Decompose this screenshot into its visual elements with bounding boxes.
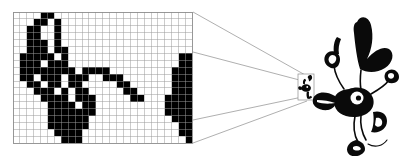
pixel-cell xyxy=(186,67,193,74)
pixel-cell xyxy=(110,74,117,81)
pixel-cell xyxy=(61,47,68,54)
pixel-cell xyxy=(27,26,34,33)
pixel-cell xyxy=(48,109,55,116)
pixel-cell xyxy=(186,53,193,60)
pixel-cell xyxy=(75,109,82,116)
pixel-cell xyxy=(61,88,68,95)
pixel-cell xyxy=(61,53,68,60)
pixel-cell xyxy=(75,81,82,88)
pixel-cell xyxy=(27,60,34,67)
pixel-cell xyxy=(61,60,68,67)
pixel-cell xyxy=(48,81,55,88)
pixel-cell xyxy=(89,95,96,102)
pixel-cell xyxy=(54,40,61,47)
pixel-cell xyxy=(165,109,172,116)
pixel-cell xyxy=(34,81,41,88)
pixel-cell xyxy=(54,60,61,67)
pixel-cell xyxy=(20,53,27,60)
pixel-cell xyxy=(179,95,186,102)
pixel-cell xyxy=(68,74,75,81)
pixel-cell xyxy=(61,67,68,74)
pixel-cell xyxy=(41,12,48,19)
pixel-cell xyxy=(27,74,34,81)
pixel-cell xyxy=(103,67,110,74)
pixel-cell xyxy=(186,129,193,136)
pixel-cell xyxy=(117,74,124,81)
pixel-cell xyxy=(68,122,75,129)
pixel-cell xyxy=(179,122,186,129)
pixel-cell xyxy=(48,88,55,95)
pixel-cell xyxy=(172,102,179,109)
pixel-cell xyxy=(75,129,82,136)
pixel-cell xyxy=(75,88,82,95)
pixel-cell xyxy=(123,81,130,88)
pixel-cell xyxy=(48,12,55,19)
pixel-cell xyxy=(54,102,61,109)
pixel-cell xyxy=(48,67,55,74)
eye-pupil xyxy=(356,95,361,100)
pixel-cell xyxy=(172,67,179,74)
pixel-cell xyxy=(54,122,61,129)
pixel-cell xyxy=(54,47,61,54)
pixel-cell xyxy=(61,136,68,143)
pixel-cell xyxy=(186,109,193,116)
pixel-cell xyxy=(34,67,41,74)
pixel-cell xyxy=(20,74,27,81)
pixel-cell xyxy=(82,88,89,95)
pixel-cell xyxy=(165,102,172,109)
pixel-cell xyxy=(68,81,75,88)
pixel-cell xyxy=(27,40,34,47)
pixel-cell xyxy=(41,47,48,54)
pixel-cell xyxy=(27,81,34,88)
pixel-cell xyxy=(54,67,61,74)
pixel-cell xyxy=(172,95,179,102)
pixel-cell xyxy=(54,95,61,102)
pixel-cell xyxy=(41,19,48,26)
pixel-cell xyxy=(179,102,186,109)
pixel-cell xyxy=(68,116,75,123)
pixel-cell xyxy=(172,74,179,81)
pixel-cell xyxy=(179,60,186,67)
pixel-cell xyxy=(41,67,48,74)
pixel-cell xyxy=(48,95,55,102)
pixel-cell xyxy=(82,116,89,123)
pixel-cell xyxy=(165,95,172,102)
pixel-cell xyxy=(172,109,179,116)
pixel-cell xyxy=(20,60,27,67)
pixel-cell xyxy=(27,33,34,40)
pixel-cell xyxy=(103,74,110,81)
pixel-cell xyxy=(34,19,41,26)
pixel-cell xyxy=(34,53,41,60)
pixel-cell xyxy=(123,88,130,95)
pixel-cell xyxy=(82,95,89,102)
pixel-cell xyxy=(75,136,82,143)
pixel-cell xyxy=(89,109,96,116)
pixel-cell xyxy=(179,109,186,116)
pixel-cell xyxy=(179,116,186,123)
pixel-cell xyxy=(179,53,186,60)
pixel-cell xyxy=(179,129,186,136)
pixel-cell xyxy=(186,88,193,95)
pixel-cell xyxy=(186,122,193,129)
thumbnail-of-character xyxy=(298,74,314,100)
pixel-cell xyxy=(75,122,82,129)
pixel-cell xyxy=(179,67,186,74)
pixel-cell xyxy=(68,67,75,74)
pixel-cell xyxy=(186,81,193,88)
pixel-cell xyxy=(89,67,96,74)
pixel-cell xyxy=(186,60,193,67)
neck xyxy=(360,70,361,90)
pixel-cell xyxy=(34,40,41,47)
pixel-cell xyxy=(48,53,55,60)
pixel-cell xyxy=(68,109,75,116)
pixel-cell xyxy=(75,95,82,102)
figure-root xyxy=(0,0,405,156)
pixel-cell xyxy=(179,81,186,88)
pixel-cell xyxy=(34,88,41,95)
pixel-cell xyxy=(68,102,75,109)
pixel-cell xyxy=(54,26,61,33)
pixel-cell xyxy=(82,67,89,74)
pixel-cell xyxy=(186,95,193,102)
pixel-cell xyxy=(68,136,75,143)
pixel-cell xyxy=(34,26,41,33)
